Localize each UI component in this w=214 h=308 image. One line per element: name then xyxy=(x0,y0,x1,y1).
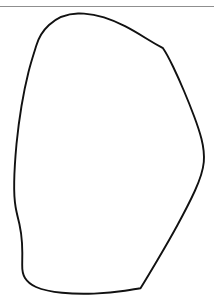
figure-canvas xyxy=(0,0,214,308)
canvas-background xyxy=(0,0,214,308)
figure-svg xyxy=(0,0,214,308)
